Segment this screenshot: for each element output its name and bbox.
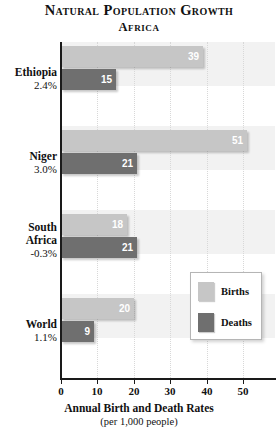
- legend-item-births: Births: [198, 282, 249, 301]
- bar-south-africa-deaths: 21: [61, 237, 137, 258]
- tick-mark-0: [61, 380, 62, 384]
- category-label-niger: Niger 3.0%: [0, 150, 57, 176]
- page-title: Natural Population Growth: [0, 2, 278, 19]
- category-name: World: [0, 318, 57, 331]
- legend-swatch-births-icon: [198, 282, 214, 301]
- category-name: Ethiopia: [0, 66, 57, 79]
- category-name-line1: South: [0, 221, 57, 234]
- legend-item-deaths: Deaths: [198, 313, 252, 332]
- category-label-ethiopia: Ethiopia 2.4%: [0, 66, 57, 92]
- category-name: Niger: [0, 150, 57, 163]
- tick-mark-30: [170, 380, 171, 384]
- bar-value: 18: [112, 220, 123, 230]
- legend-swatch-deaths-icon: [198, 313, 214, 332]
- bar-ethiopia-births: 39: [61, 46, 203, 67]
- bar-world-deaths: 9: [61, 321, 94, 342]
- bar-ethiopia-deaths: 15: [61, 69, 116, 90]
- tick-mark-50: [243, 380, 244, 384]
- bar-south-africa-births: 18: [61, 214, 127, 235]
- bar-niger-deaths: 21: [61, 153, 137, 174]
- tick-mark-10: [97, 380, 98, 384]
- tick-label-50: 50: [228, 385, 258, 397]
- category-label-south-africa: South Africa -0.3%: [0, 221, 57, 260]
- tick-label-40: 40: [192, 385, 222, 397]
- legend-label-deaths: Deaths: [221, 317, 252, 328]
- tick-label-30: 30: [155, 385, 185, 397]
- legend-label-births: Births: [221, 286, 249, 297]
- tick-label-10: 10: [82, 385, 112, 397]
- bar-value: 21: [122, 243, 133, 253]
- gridline-x-20: [134, 42, 135, 378]
- tick-label-0: 0: [46, 385, 76, 397]
- bar-niger-births: 51: [61, 130, 247, 151]
- gridline-x-10: [97, 42, 98, 378]
- y-axis-line: [60, 42, 62, 379]
- bar-value: 51: [232, 136, 243, 146]
- bar-value: 39: [188, 52, 199, 62]
- x-axis-caption: Annual Birth and Death Rates (per 1,000 …: [0, 401, 278, 428]
- category-rate: 3.0%: [0, 163, 57, 176]
- x-axis-label: Annual Birth and Death Rates: [0, 401, 278, 415]
- bar-value: 9: [84, 327, 90, 337]
- plot-area: 39 15 51 21 18 21 20 9 Births Deaths: [61, 42, 275, 378]
- legend: Births Deaths: [190, 272, 262, 340]
- tick-label-20: 20: [119, 385, 149, 397]
- category-label-world: World 1.1%: [0, 318, 57, 344]
- chart-header: Natural Population Growth Africa: [0, 2, 278, 35]
- tick-mark-20: [134, 380, 135, 384]
- bar-value: 20: [119, 304, 130, 314]
- category-name-line2: Africa: [0, 234, 57, 247]
- gridline-x-30: [170, 42, 171, 378]
- bar-value: 15: [101, 75, 112, 85]
- category-rate: 1.1%: [0, 331, 57, 344]
- x-axis-label-units: (per 1,000 people): [0, 415, 278, 428]
- category-rate: -0.3%: [0, 247, 57, 260]
- bar-world-births: 20: [61, 298, 134, 319]
- tick-mark-40: [207, 380, 208, 384]
- bar-value: 21: [122, 159, 133, 169]
- chart-subtitle: Africa: [0, 19, 278, 35]
- category-rate: 2.4%: [0, 79, 57, 92]
